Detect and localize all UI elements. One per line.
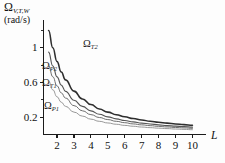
plot-area: 0.20.612345678910 L [0,0,225,163]
x-tick-label: 8 [156,139,162,151]
x-tick-label: 7 [139,139,145,151]
x-tick-label: 10 [187,139,199,151]
data-curves [49,30,193,129]
x-tick-label: 2 [54,139,60,151]
x-tick-label: 9 [173,139,179,151]
x-tick-label: 4 [88,139,94,151]
x-axis-label: L [210,129,217,141]
y-tick-label: 1 [32,41,38,53]
chart-figure: ΩV,T,W (rad/s) ΩT2 ΩP2 ΩT1 ΩP1 0.20.6123… [0,0,225,163]
x-tick-label: 3 [71,139,77,151]
y-tick-label: 0.2 [24,111,38,123]
y-tick-label: 0.6 [24,76,38,88]
curve-t2 [49,30,193,125]
x-tick-label: 5 [105,139,111,151]
x-tick-label: 6 [122,139,128,151]
